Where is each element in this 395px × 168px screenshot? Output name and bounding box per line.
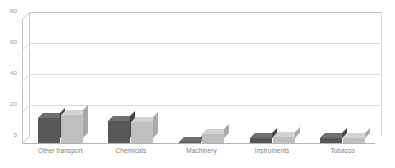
y-tick-label: 0 xyxy=(0,132,17,138)
bar xyxy=(179,142,201,143)
y-tick-label: 40 xyxy=(0,70,17,76)
y-tick-label: 80 xyxy=(0,8,17,14)
bar-side-face xyxy=(153,112,158,138)
bar xyxy=(320,138,342,143)
y-axis-tick-labels: 020406080 xyxy=(0,0,17,168)
bar-side-face xyxy=(224,124,229,138)
bar-chart: 020406080 Other transportChemicalsMachin… xyxy=(0,0,395,168)
bar xyxy=(61,115,83,143)
bar-front-face xyxy=(179,142,201,143)
bars-layer xyxy=(22,12,382,144)
bar xyxy=(202,134,224,143)
x-tick-label: Instruments xyxy=(232,147,312,154)
y-tick-label: 60 xyxy=(0,39,17,45)
bar-side-face xyxy=(83,105,88,138)
x-tick-label: Chemicals xyxy=(91,147,171,154)
bar-front-face xyxy=(320,138,342,143)
bar-front-face xyxy=(273,137,295,143)
x-tick-label: Machinery xyxy=(162,147,242,154)
bar-side-face xyxy=(365,128,370,138)
bar xyxy=(343,138,365,143)
bar xyxy=(38,118,60,143)
bar xyxy=(250,138,272,143)
x-tick-label: Tobacco xyxy=(303,147,383,154)
bar-front-face xyxy=(250,138,272,143)
y-tick-label: 20 xyxy=(0,101,17,107)
bar-front-face xyxy=(108,121,130,143)
x-axis-category-labels: Other transportChemicalsMachineryInstrum… xyxy=(22,147,382,161)
x-tick-label: Other transport xyxy=(20,147,100,154)
bar-front-face xyxy=(131,122,153,143)
bar-side-face xyxy=(295,127,300,138)
bar-front-face xyxy=(343,138,365,143)
bar xyxy=(108,121,130,143)
bar-front-face xyxy=(61,115,83,143)
bar-front-face xyxy=(38,118,60,143)
bar-front-face xyxy=(202,134,224,143)
bar xyxy=(131,122,153,143)
bar xyxy=(273,137,295,143)
